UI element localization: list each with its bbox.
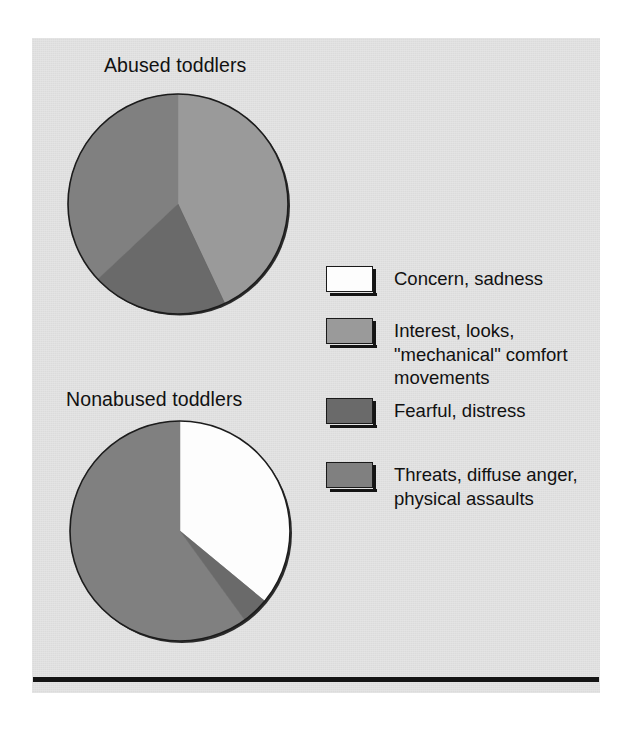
pie-nonabused-svg bbox=[65, 415, 297, 647]
legend-swatch-threats-anger bbox=[326, 462, 377, 492]
legend-label-concern-sadness: Concern, sadness bbox=[394, 266, 543, 291]
legend-swatch-fill bbox=[326, 398, 373, 424]
legend-swatch-concern-sadness bbox=[326, 266, 377, 296]
pie-nonabused-slices bbox=[70, 421, 290, 641]
bottom-rule bbox=[33, 677, 599, 682]
legend-item-threats-anger[interactable]: Threats, diffuse anger, physical assault… bbox=[326, 462, 578, 510]
figure-panel: Abused toddlers Nonabused toddlers Conce… bbox=[0, 0, 631, 730]
legend-swatch-interest-looks bbox=[326, 318, 377, 348]
legend-label-threats-anger: Threats, diffuse anger, physical assault… bbox=[394, 462, 578, 510]
legend-swatch-fearful-distress bbox=[326, 398, 377, 428]
chart-title-nonabused: Nonabused toddlers bbox=[66, 388, 242, 411]
legend-swatch-fill bbox=[326, 318, 373, 344]
pie-abused-svg bbox=[63, 88, 295, 320]
legend-swatch-fill bbox=[326, 462, 373, 488]
pie-chart-abused bbox=[63, 88, 295, 320]
chart-title-abused: Abused toddlers bbox=[104, 54, 246, 77]
pie-chart-nonabused bbox=[65, 415, 297, 647]
legend-swatch-fill bbox=[326, 266, 373, 292]
legend-label-interest-looks: Interest, looks, "mechanical" comfort mo… bbox=[394, 318, 568, 390]
legend-item-fearful-distress[interactable]: Fearful, distress bbox=[326, 398, 526, 428]
legend-item-concern-sadness[interactable]: Concern, sadness bbox=[326, 266, 543, 296]
legend-label-fearful-distress: Fearful, distress bbox=[394, 398, 526, 423]
pie-abused-slices bbox=[68, 94, 288, 314]
legend-item-interest-looks[interactable]: Interest, looks, "mechanical" comfort mo… bbox=[326, 318, 568, 390]
